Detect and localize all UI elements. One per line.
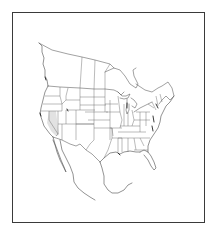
us-state-borders xyxy=(41,87,162,158)
us-east-coastline xyxy=(148,96,174,152)
accent-marks xyxy=(40,77,158,155)
lake-michigan xyxy=(126,99,129,114)
us-canada-border xyxy=(48,86,124,95)
north-america-outline-map xyxy=(0,0,215,237)
canada-northern-edge xyxy=(39,43,114,68)
canada-west-coastline xyxy=(39,43,48,86)
gulf-of-mexico-coast xyxy=(100,162,132,193)
province-border-bc-ab xyxy=(80,57,82,88)
province-border-sk-mb xyxy=(105,64,110,89)
canada-hudson-bay-edge xyxy=(105,68,138,88)
florida-peninsula xyxy=(140,150,156,170)
province-border-ab-sk xyxy=(94,60,95,89)
us-gulf-coast xyxy=(100,151,140,162)
lake-superior xyxy=(118,92,130,99)
canada-quebec-edge xyxy=(136,82,174,104)
lake-huron xyxy=(131,98,137,108)
